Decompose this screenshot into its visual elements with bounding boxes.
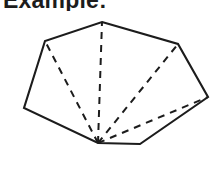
diagonal-apex-to-upper-right	[98, 44, 178, 143]
diagonal-apex-to-top	[98, 22, 102, 143]
diagram-page: Example:	[0, 0, 219, 196]
diagonal-group	[45, 22, 208, 143]
diagonal-apex-to-upper-left	[45, 41, 98, 143]
heptagon-figure	[0, 0, 219, 196]
heptagon-outline	[24, 22, 208, 144]
